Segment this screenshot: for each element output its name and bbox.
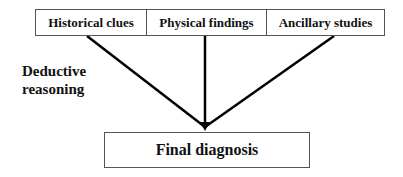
final-diagnosis-label: Final diagnosis: [156, 141, 259, 159]
connector-historical: [87, 36, 205, 127]
input-physical-findings: Physical findings: [146, 10, 266, 35]
connector-ancillary: [205, 36, 334, 127]
inputs-row: Historical clues Physical findings Ancil…: [35, 9, 385, 36]
input-ancillary-studies: Ancillary studies: [266, 10, 384, 35]
deductive-label-line1: Deductive: [22, 62, 86, 80]
final-diagnosis-box: Final diagnosis: [104, 132, 310, 168]
input-historical-clues: Historical clues: [36, 10, 146, 35]
deductive-label-line2: reasoning: [22, 80, 86, 98]
deductive-reasoning-label: Deductive reasoning: [22, 62, 86, 98]
arrowhead-icon: [200, 122, 210, 131]
